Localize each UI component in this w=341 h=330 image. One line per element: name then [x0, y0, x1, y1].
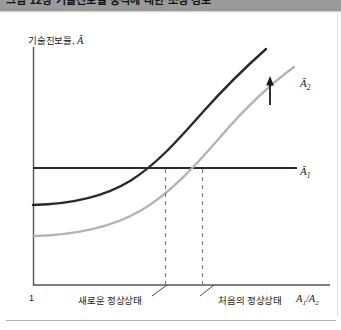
frame-bottom-rule: [6, 320, 336, 321]
leader-new-steady-state: [152, 285, 167, 296]
curve-label-a1-sub: 1: [307, 171, 311, 180]
curve-label-a2-symbol: Â: [300, 77, 307, 89]
curve-label-a1: Â1: [300, 165, 310, 180]
leader-initial-steady-state: [200, 285, 214, 296]
header-title: 그림 12장 기술진보율 충격에 대한 조정 경로: [6, 0, 212, 7]
curve-a2-dark: [33, 49, 266, 205]
x-axis-label-sub2: 2: [315, 299, 319, 307]
header-band: 그림 12장 기술진보율 충격에 대한 조정 경로: [0, 0, 341, 11]
y-axis-label: 기술진보율, Â: [28, 33, 83, 47]
chart-plot-area: [0, 13, 341, 318]
x-axis-label: A1/A2: [296, 293, 319, 307]
curve-a2-light: [33, 67, 294, 236]
annotation-initial-steady-state: 처음의 정상상태: [218, 293, 282, 307]
curve-label-a1-symbol: Â: [300, 165, 307, 177]
y-axis-label-symbol: Â: [77, 35, 83, 46]
y-axis-label-text: 기술진보율,: [28, 35, 77, 46]
x-axis-origin-tick: 1: [29, 293, 34, 303]
curve-label-a2: Â2: [300, 77, 310, 92]
x-axis-label-slash: /A: [306, 293, 315, 304]
curve-label-a2-sub: 2: [307, 83, 311, 92]
shift-up-arrow-icon: [266, 76, 274, 105]
chart-svg: [0, 13, 341, 318]
annotation-new-steady-state: 새로운 정상상태: [78, 293, 142, 307]
figure-frame: 기술진보율, Â A1/A2 1 Â2 Â1 새로운 정상상태 처음의 정상상태: [0, 13, 341, 318]
